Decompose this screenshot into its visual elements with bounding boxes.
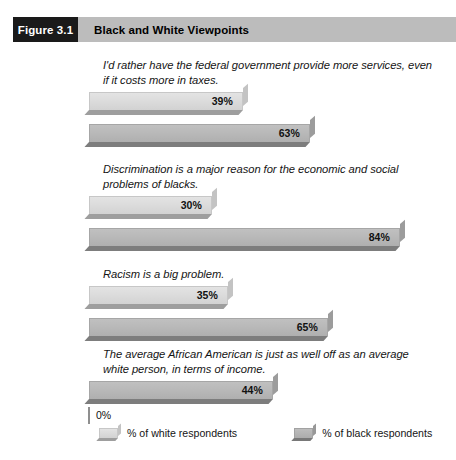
bar-value-label: 63%	[279, 128, 309, 139]
bar-value-label: 35%	[197, 290, 227, 301]
axis-origin-label: 0%	[90, 410, 111, 421]
bar-value-label: 39%	[212, 96, 242, 107]
legend-item-white-respondents: % of white respondents	[99, 428, 237, 439]
question-text: I'd rather have the federal government p…	[103, 58, 433, 88]
bar-white-respondents: 39%	[89, 92, 243, 110]
legend-item-black-respondents: % of black respondents	[294, 428, 432, 439]
figure-header-band: Figure 3.1 Black and White Viewpoints	[13, 17, 456, 42]
question-text: The average African American is just as …	[103, 347, 433, 377]
legend-label: % of white respondents	[127, 428, 237, 439]
legend-swatch-dark-icon	[294, 428, 313, 438]
bar-value-label: 30%	[181, 200, 211, 211]
bar-black-respondents: 84%	[89, 228, 400, 246]
question-text: Racism is a big problem.	[103, 267, 433, 282]
axis-origin: 0%	[88, 407, 111, 424]
bar-value-label: 84%	[369, 232, 399, 243]
legend-swatch-light-icon	[99, 428, 118, 438]
chart-legend: % of white respondents % of black respon…	[99, 428, 432, 439]
bar-black-respondents: 63%	[89, 124, 310, 142]
bar-black-respondents: 44%	[89, 381, 273, 399]
question-text: Discrimination is a major reason for the…	[103, 162, 433, 192]
bar-black-respondents: 65%	[89, 318, 328, 336]
bar-white-respondents: 35%	[89, 286, 228, 304]
legend-label: % of black respondents	[322, 428, 432, 439]
bar-value-label: 44%	[242, 385, 272, 396]
figure-number-tag: Figure 3.1	[13, 17, 78, 42]
bar-value-label: 65%	[297, 322, 327, 333]
bar-white-respondents: 30%	[89, 196, 212, 214]
figure-title: Black and White Viewpoints	[78, 17, 249, 42]
